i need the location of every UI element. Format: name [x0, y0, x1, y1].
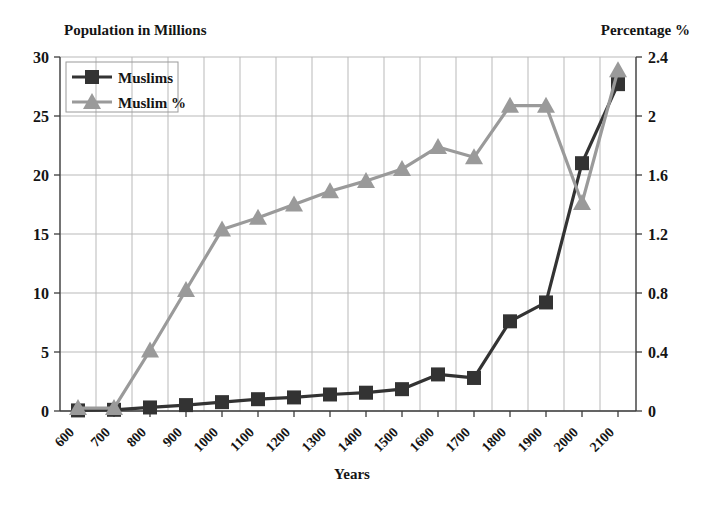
left-tick-label: 15: [33, 226, 49, 243]
data-point-marker: [287, 390, 301, 404]
x-tick-label: 1600: [407, 425, 437, 455]
right-tick-label: 2: [648, 108, 656, 125]
left-tick-label: 0: [41, 403, 49, 420]
x-tick-label: 1700: [443, 425, 473, 455]
right-tick-label: 1.2: [648, 226, 668, 243]
x-tick-label: 800: [124, 425, 149, 450]
x-tick-label: 2100: [587, 425, 617, 455]
data-point-marker: [429, 138, 447, 154]
legend-label: Muslim %: [118, 95, 186, 111]
data-point-marker: [141, 342, 159, 358]
chart-container: Population in Millions Percentage % 0510…: [0, 0, 704, 510]
left-tick-label: 30: [33, 49, 49, 66]
x-tick-label: 1200: [263, 425, 293, 455]
legend-label: Muslims: [118, 70, 173, 86]
right-tick-label: 0.4: [648, 344, 668, 361]
x-axis-title: Years: [0, 466, 704, 483]
left-axis-tick-labels: 051015202530: [33, 49, 49, 420]
right-tick-label: 2.4: [648, 49, 668, 66]
right-tick-label: 0.8: [648, 285, 668, 302]
x-tick-label: 2000: [551, 425, 581, 455]
x-tick-label: 1100: [227, 425, 257, 455]
data-point-marker: [215, 395, 229, 409]
data-point-marker: [431, 367, 445, 381]
data-point-marker: [251, 392, 265, 406]
data-point-marker: [609, 61, 627, 77]
x-tick-label: 1300: [299, 425, 329, 455]
legend-swatch-marker: [85, 70, 99, 84]
data-point-marker: [179, 398, 193, 412]
x-axis-tick-labels: 6007008009001000110012001300140015001600…: [52, 425, 617, 455]
data-point-marker: [467, 371, 481, 385]
data-point-marker: [393, 160, 411, 176]
left-tick-label: 10: [33, 285, 49, 302]
left-tick-label: 20: [33, 167, 49, 184]
data-point-marker: [575, 156, 589, 170]
data-point-marker: [395, 382, 409, 396]
x-tick-label: 700: [88, 425, 113, 450]
data-point-marker: [503, 314, 517, 328]
right-axis-tick-labels: 00.40.81.21.622.4: [648, 49, 668, 420]
data-point-marker: [573, 194, 591, 210]
data-point-marker: [177, 281, 195, 297]
left-tick-label: 5: [41, 344, 49, 361]
left-tick-label: 25: [33, 108, 49, 125]
data-point-marker: [143, 400, 157, 414]
chart-plot-area: 051015202530 00.40.81.21.622.4 600700800…: [0, 0, 704, 510]
x-tick-label: 1400: [335, 425, 365, 455]
right-tick-label: 0: [648, 403, 656, 420]
x-tick-label: 1800: [479, 425, 509, 455]
x-tick-label: 1000: [191, 425, 221, 455]
x-tick-label: 1500: [371, 425, 401, 455]
x-tick-label: 600: [52, 425, 77, 450]
data-point-marker: [323, 387, 337, 401]
data-point-marker: [539, 295, 553, 309]
data-point-marker: [359, 386, 373, 400]
x-tick-label: 900: [160, 425, 185, 450]
x-tick-label: 1900: [515, 425, 545, 455]
right-tick-label: 1.6: [648, 167, 668, 184]
